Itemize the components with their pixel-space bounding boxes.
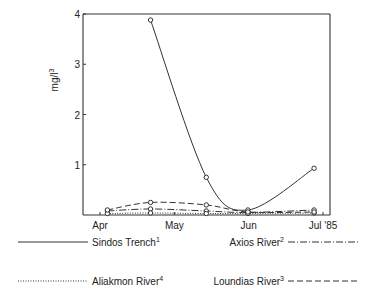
data-point <box>246 210 250 214</box>
legend: Sindos Trench1Aliakmon River4Axios River… <box>18 236 358 287</box>
legend-label: Aliakmon River4 <box>92 275 163 287</box>
legend-item: Sindos Trench1 <box>18 236 160 248</box>
data-point <box>204 175 208 179</box>
legend-label: Axios River2 <box>230 236 285 248</box>
legend-label-text: Axios River <box>230 237 281 248</box>
data-point <box>204 211 208 215</box>
axes: 1234AprMayJunJul '85mg/l3 <box>48 9 338 231</box>
series-line <box>107 209 314 213</box>
legend-label-text: Loundias River <box>213 276 280 287</box>
series-line <box>107 213 314 214</box>
data-point <box>204 203 208 207</box>
data-point <box>312 166 316 170</box>
y-tick-label: 2 <box>74 110 80 121</box>
y-tick-label: 4 <box>74 9 80 20</box>
legend-label-superscript: 3 <box>280 275 284 282</box>
chart: 1234AprMayJunJul '85mg/l3 Sindos Trench1… <box>0 0 377 300</box>
data-point <box>312 210 316 214</box>
x-tick-label: Jul '85 <box>309 220 338 231</box>
x-tick-label: Jun <box>241 220 257 231</box>
y-axis-title-text: mg/l <box>49 73 60 92</box>
legend-label: Sindos Trench1 <box>92 236 160 248</box>
series-line <box>151 20 315 210</box>
y-tick-label: 1 <box>74 160 80 171</box>
series-layer <box>105 18 316 216</box>
x-tick-label: Apr <box>92 220 108 231</box>
series-loundias-river <box>105 200 316 214</box>
series-sindos-trench <box>148 18 316 212</box>
x-tick-label: May <box>165 220 184 231</box>
legend-item: Axios River2 <box>230 236 358 248</box>
legend-item: Aliakmon River4 <box>18 275 163 287</box>
legend-label-superscript: 2 <box>280 236 284 243</box>
y-axis-title-superscript: 3 <box>48 69 55 73</box>
legend-label-text: Sindos Trench <box>92 237 156 248</box>
legend-label-superscript: 4 <box>159 275 163 282</box>
y-axis-title: mg/l3 <box>48 69 60 92</box>
y-tick-label: 3 <box>74 59 80 70</box>
legend-label: Loundias River3 <box>213 275 284 287</box>
data-point <box>105 208 109 212</box>
legend-label-text: Aliakmon River <box>92 276 160 287</box>
series-line <box>107 202 314 212</box>
data-point <box>148 200 152 204</box>
legend-label-superscript: 1 <box>156 236 160 243</box>
data-point <box>148 18 152 22</box>
legend-item: Loundias River3 <box>213 275 358 287</box>
data-point <box>148 211 152 215</box>
